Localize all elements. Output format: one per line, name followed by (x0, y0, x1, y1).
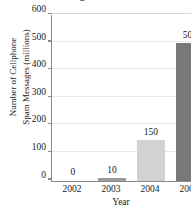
bar-slot: 500 (170, 15, 191, 181)
bar-chart-figure: Messages in the United States Number of … (0, 0, 191, 212)
chart-title: Messages in the United States (38, 0, 191, 2)
bar-slot: 150 (131, 15, 170, 181)
y-axis-tick (48, 123, 52, 124)
y-axis-tick-label: 500 (32, 32, 46, 42)
y-axis-tick-label: 0 (41, 170, 46, 180)
y-axis-tick-label: 200 (32, 114, 46, 124)
y-axis-tick (48, 40, 52, 41)
bar-slot: 10 (92, 15, 131, 181)
x-axis-tick-label: 2003 (91, 184, 130, 195)
y-axis-tick (48, 68, 52, 69)
x-axis-tick-labels: 2002200320042005 (51, 184, 191, 196)
y-axis-title-line-1: Number of Cellphone (7, 0, 20, 157)
y-axis-tick (48, 96, 52, 97)
bar[interactable] (98, 178, 126, 181)
x-axis-tick-label: 2002 (52, 184, 91, 195)
y-axis-tick (48, 178, 52, 179)
bar-value-label: 0 (53, 167, 92, 177)
bar[interactable] (137, 140, 165, 181)
y-axis-title-line-2: Spam Messages (millions) (20, 0, 33, 157)
y-axis-tick-label: 600 (32, 4, 46, 14)
y-axis-tick-label: 300 (32, 87, 46, 97)
bar-value-label: 150 (131, 127, 170, 137)
gridline (52, 13, 191, 14)
y-axis-title: Number of Cellphone Spam Messages (milli… (7, 0, 33, 157)
bar[interactable] (176, 43, 191, 181)
bar-value-label: 500 (170, 30, 191, 40)
y-axis-tick (48, 151, 52, 152)
plot-area: 0100200300400500600 010150500 (51, 15, 191, 182)
bar-slot: 0 (53, 15, 92, 181)
x-axis-tick-label: 2005 (169, 184, 191, 195)
bar-series: 010150500 (53, 15, 191, 181)
y-axis-tick (48, 13, 52, 14)
y-axis-tick-label: 100 (32, 142, 46, 152)
bar-value-label: 10 (92, 165, 131, 175)
x-axis-title: Year (51, 197, 191, 208)
y-axis-tick-label: 400 (32, 59, 46, 69)
x-axis-tick-label: 2004 (130, 184, 169, 195)
